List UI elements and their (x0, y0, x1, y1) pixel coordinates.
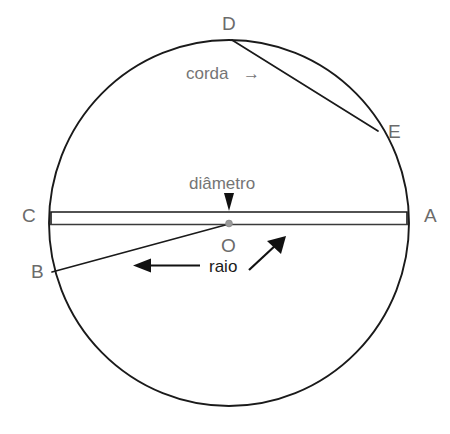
vertex-label-d: D (222, 13, 236, 34)
diametro-label: diâmetro (189, 174, 255, 193)
raio-arrow-upright-icon (249, 236, 286, 270)
raio-arrow-left-icon (133, 259, 200, 273)
chord-segment-de (232, 40, 378, 131)
corda-arrow-right-icon: → (243, 64, 260, 83)
vertex-label-b: B (31, 261, 44, 282)
diametro-arrow-down-icon (224, 193, 234, 211)
vertex-label-a: A (424, 205, 437, 226)
corda-label: corda (186, 64, 229, 83)
raio-label: raio (209, 257, 237, 276)
vertex-label-c: C (22, 205, 36, 226)
vertex-label-o: O (221, 235, 236, 256)
vertex-label-e: E (388, 121, 401, 142)
center-point-dot (226, 220, 233, 227)
circle-figure-svg: A B C D E O corda → diâmetro raio (0, 0, 450, 434)
geometry-diagram: A B C D E O corda → diâmetro raio (0, 0, 450, 434)
